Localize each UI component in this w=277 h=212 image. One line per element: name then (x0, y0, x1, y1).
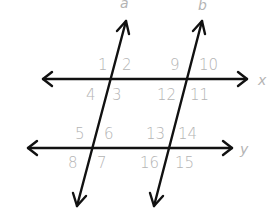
angle-label: 12 (157, 86, 176, 104)
angle-label: 1 (98, 56, 108, 74)
angle-label: 3 (112, 86, 122, 104)
angle-label: 13 (146, 125, 165, 143)
angle-label: 11 (190, 86, 209, 104)
angles-diagram: a b x y 1 2 3 4 9 10 11 12 5 6 7 8 13 14… (0, 0, 277, 212)
angle-label: 7 (97, 154, 107, 172)
line-b (150, 21, 205, 206)
line-a (73, 21, 129, 206)
angle-label: 6 (104, 125, 114, 143)
angle-label: 4 (86, 86, 96, 104)
angle-label: 14 (178, 125, 197, 143)
angle-label: 15 (175, 154, 194, 172)
line-label-y: y (239, 141, 249, 157)
line-label-a: a (120, 0, 129, 11)
angle-label: 16 (140, 154, 159, 172)
line-x (43, 72, 247, 86)
line-label-b: b (198, 0, 207, 13)
line-label-x: x (257, 72, 267, 88)
angle-label: 9 (170, 56, 180, 74)
angle-label: 2 (122, 56, 132, 74)
angle-label: 8 (68, 154, 78, 172)
angle-label: 10 (199, 56, 218, 74)
line-y (28, 141, 232, 155)
angle-label: 5 (75, 125, 85, 143)
